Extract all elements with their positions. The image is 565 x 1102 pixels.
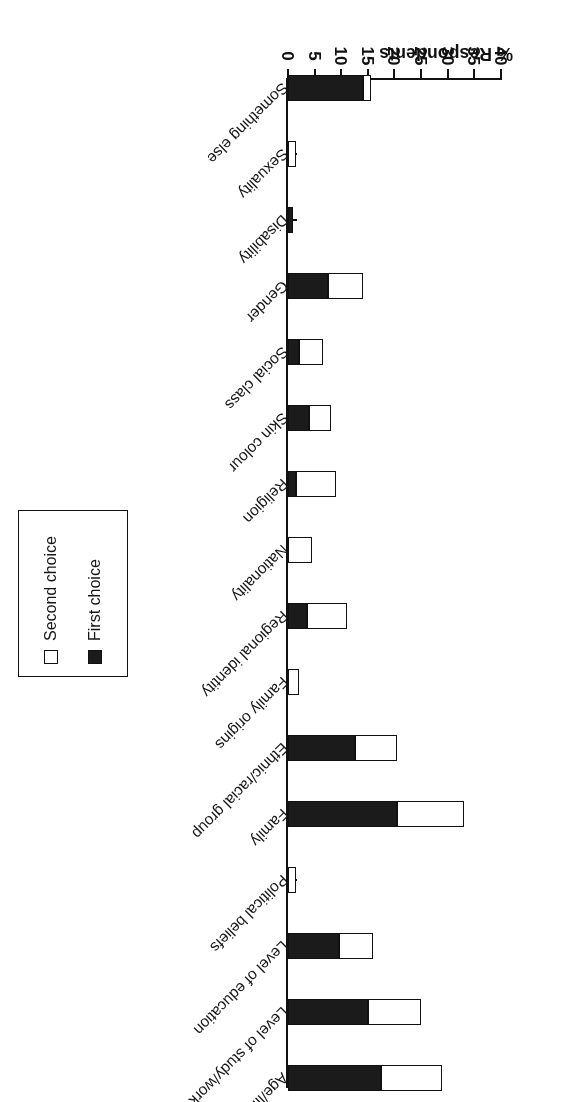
figure-rotation-wrapper: Master identities in the ethnic options …: [0, 0, 565, 1102]
bar-segment-first-choice: [288, 933, 339, 959]
chart-legend: Second choiceFirst choice: [18, 510, 128, 677]
bar-segment-first-choice: [288, 999, 368, 1025]
value-tick-label: 15: [357, 36, 377, 76]
legend-entry: Second choice: [42, 511, 60, 664]
bar-segment-second-choice: [368, 999, 421, 1025]
legend-label: Second choice: [42, 536, 60, 641]
bar-chart-figure: Master identities in the ethnic options …: [0, 0, 565, 1102]
legend-swatch-second-choice: [44, 650, 58, 664]
bar-segment-first-choice: [288, 273, 328, 299]
bar-group: [0, 207, 565, 233]
legend-entry: First choice: [86, 511, 104, 664]
bar-segment-second-choice: [288, 141, 296, 167]
bar-segment-second-choice: [288, 669, 299, 695]
bar-segment-second-choice: [307, 603, 347, 629]
value-tick-label: 25: [410, 36, 430, 76]
bar-segment-first-choice: [288, 801, 397, 827]
bar-group: [0, 999, 565, 1025]
bar-segment-second-choice: [397, 801, 464, 827]
bar-segment-first-choice: [288, 75, 363, 101]
bar-segment-second-choice: [328, 273, 363, 299]
bar-group: [0, 75, 565, 101]
bar-group: [0, 735, 565, 761]
bar-segment-first-choice: [288, 603, 307, 629]
bar-segment-second-choice: [288, 537, 312, 563]
value-tick-label: 30: [437, 36, 457, 76]
bar-segment-first-choice: [288, 1065, 381, 1091]
bar-segment-second-choice: [339, 933, 374, 959]
bar-group: [0, 867, 565, 893]
bar-segment-second-choice: [355, 735, 398, 761]
bar-segment-first-choice: [288, 405, 309, 431]
bar-segment-first-choice: [288, 735, 355, 761]
bar-segment-second-choice: [288, 867, 296, 893]
bar-group: [0, 933, 565, 959]
bar-segment-second-choice: [299, 339, 323, 365]
bar-segment-second-choice: [309, 405, 330, 431]
legend-swatch-first-choice: [88, 650, 102, 664]
bar-group: [0, 471, 565, 497]
value-tick-label: 40: [490, 36, 510, 76]
bar-segment-first-choice: [288, 339, 299, 365]
bar-group: [0, 1065, 565, 1091]
legend-label: First choice: [86, 559, 104, 641]
bar-group: [0, 801, 565, 827]
value-tick-label: 20: [384, 36, 404, 76]
bar-segment-first-choice: [288, 207, 293, 233]
bar-segment-second-choice: [381, 1065, 442, 1091]
bar-segment-first-choice: [288, 471, 296, 497]
value-tick-label: 35: [463, 36, 483, 76]
bar-group: [0, 273, 565, 299]
value-tick-label: 10: [330, 36, 350, 76]
value-tick-label: 5: [304, 36, 324, 76]
value-tick-label: 0: [277, 36, 297, 76]
bar-group: [0, 405, 565, 431]
bar-segment-second-choice: [363, 75, 371, 101]
bar-group: [0, 141, 565, 167]
bar-segment-second-choice: [296, 471, 336, 497]
bar-group: [0, 339, 565, 365]
